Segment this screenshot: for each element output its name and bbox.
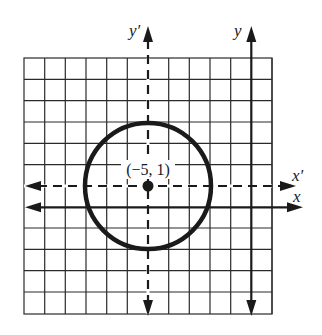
arrow-up-icon — [143, 26, 153, 42]
x-prime-label: x′ — [291, 166, 304, 185]
x-label: x — [292, 187, 301, 206]
translated-circle-diagram: (−5, 1) y′ y x′ x — [0, 0, 322, 335]
y-label: y — [232, 21, 242, 40]
arrow-left-icon — [25, 202, 41, 212]
x-axis — [25, 202, 303, 212]
center-label: (−5, 1) — [126, 161, 170, 179]
arrow-left-icon — [25, 181, 41, 191]
arrow-up-icon — [246, 26, 256, 42]
y-prime-label: y′ — [127, 21, 141, 40]
center-point — [143, 181, 154, 192]
y-axis — [246, 26, 256, 316]
